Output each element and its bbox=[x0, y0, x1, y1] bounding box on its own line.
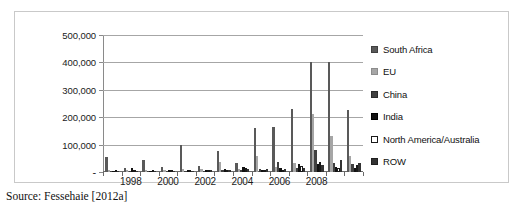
y-axis-tick-label: 300,000 bbox=[62, 84, 96, 95]
plot-area: -100,000200,000300,000400,000500,000 199… bbox=[103, 35, 363, 172]
legend-swatch-icon bbox=[371, 46, 378, 53]
x-axis-tick-label: 2000 bbox=[157, 176, 178, 187]
bar bbox=[228, 170, 230, 172]
bar bbox=[266, 169, 268, 172]
x-axis-tick-label: 2006 bbox=[269, 176, 290, 187]
bar bbox=[358, 163, 360, 172]
legend-item-label: China bbox=[383, 89, 407, 100]
legend-item-label: India bbox=[383, 111, 403, 122]
legend-swatch-icon bbox=[371, 91, 378, 98]
bar bbox=[272, 127, 274, 172]
legend-item: North America/Australia bbox=[371, 128, 517, 151]
bar bbox=[247, 169, 249, 172]
chart-legend: South AfricaEUChinaIndiaNorth America/Au… bbox=[371, 38, 517, 173]
bar bbox=[180, 145, 182, 172]
y-axis-tick-label: 400,000 bbox=[62, 57, 96, 68]
x-axis-tick-label: 1998 bbox=[120, 176, 141, 187]
x-axis-tick-label: 2008 bbox=[306, 176, 327, 187]
bar bbox=[136, 171, 138, 172]
y-axis-tick-label: - bbox=[92, 166, 96, 178]
bar bbox=[154, 171, 156, 172]
x-axis-tick-label: 2004 bbox=[232, 176, 253, 187]
legend-item: India bbox=[371, 106, 517, 129]
x-axis-tick-label: 2002 bbox=[194, 176, 215, 187]
y-axis-tick-label: 200,000 bbox=[62, 112, 96, 123]
legend-item: South Africa bbox=[371, 38, 517, 61]
x-axis-tick bbox=[103, 172, 104, 176]
bars-layer bbox=[103, 35, 363, 172]
bar bbox=[117, 171, 119, 172]
legend-swatch-icon bbox=[371, 158, 378, 165]
legend-swatch-icon bbox=[371, 136, 378, 143]
legend-item-label: ROW bbox=[383, 156, 406, 167]
bar bbox=[321, 165, 323, 172]
bar bbox=[340, 160, 342, 172]
bar bbox=[210, 170, 212, 172]
bar bbox=[191, 171, 193, 172]
source-caption: Source: Fessehaie [2012a] bbox=[6, 190, 127, 202]
bar bbox=[173, 171, 175, 172]
chart-frame: -100,000200,000300,000400,000500,000 199… bbox=[14, 11, 509, 183]
legend-swatch-icon bbox=[371, 68, 378, 75]
legend-item-label: South Africa bbox=[383, 44, 432, 55]
y-axis-tick-label: 500,000 bbox=[62, 30, 96, 41]
legend-item: China bbox=[371, 83, 517, 106]
chart-screenshot: -100,000200,000300,000400,000500,000 199… bbox=[0, 0, 524, 214]
legend-item-label: EU bbox=[383, 66, 396, 77]
legend-swatch-icon bbox=[371, 113, 378, 120]
x-axis-tick bbox=[344, 172, 345, 176]
legend-item: EU bbox=[371, 61, 517, 84]
legend-item: ROW bbox=[371, 151, 517, 174]
x-axis-tick bbox=[363, 172, 364, 176]
legend-item-label: North America/Australia bbox=[383, 134, 479, 145]
bar bbox=[303, 168, 305, 172]
bar bbox=[284, 169, 286, 172]
y-axis-tick-label: 100,000 bbox=[62, 139, 96, 150]
